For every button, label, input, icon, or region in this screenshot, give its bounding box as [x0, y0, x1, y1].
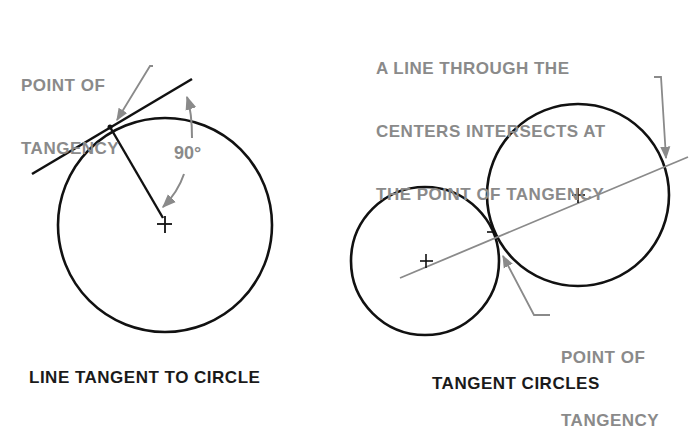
left-tangency-label-line1: POINT OF — [21, 75, 119, 96]
angle-label: 90° — [174, 143, 201, 164]
bottom-tangency-label-line2: TANGENCY — [561, 410, 659, 430]
angle-arrow-upper — [187, 97, 192, 138]
top-callout-line1: A LINE THROUGH THE — [376, 58, 606, 79]
bottom-tangency-label-line1: POINT OF — [561, 347, 659, 368]
left-center-mark — [157, 216, 172, 233]
left-tangency-label: POINT OF TANGENCY — [21, 33, 119, 180]
left-caption: LINE TANGENT TO CIRCLE — [29, 367, 260, 388]
angle-arrow-lower — [163, 174, 184, 207]
top-callout-line3: THE POINT OF TANGENCY — [376, 184, 606, 205]
top-callout-line2: CENTERS INTERSECTS AT — [376, 121, 606, 142]
top-callout-label: A LINE THROUGH THE CENTERS INTERSECTS AT… — [376, 16, 606, 226]
bottom-tangency-label: POINT OF TANGENCY — [561, 305, 659, 430]
right-caption: TANGENT CIRCLES — [432, 373, 600, 394]
bottom-callout-leader-arrow — [503, 256, 550, 315]
left-tangency-label-line2: TANGENCY — [21, 138, 119, 159]
